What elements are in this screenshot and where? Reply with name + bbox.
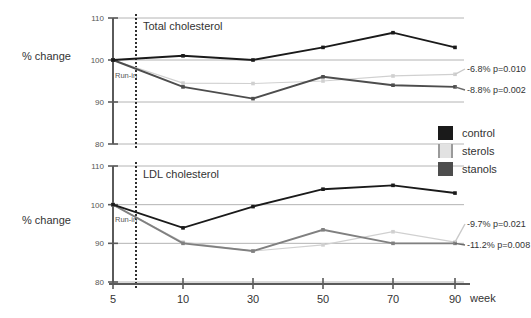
panel-title: Total cholesterol bbox=[143, 20, 223, 32]
legend-item-control[interactable]: control bbox=[438, 124, 497, 142]
x-axis-unit-label: week bbox=[470, 292, 496, 304]
data-point-control-w70 bbox=[391, 184, 395, 188]
legend-item-sterols[interactable]: sterols bbox=[438, 142, 497, 160]
annotation-leader-sterols bbox=[455, 224, 465, 242]
series-line-control bbox=[113, 33, 455, 60]
data-point-stanols-w50 bbox=[321, 75, 325, 79]
series-line-control bbox=[113, 185, 455, 228]
data-point-sterols-w50 bbox=[321, 243, 325, 247]
y-tick-label-100: 100 bbox=[91, 56, 105, 65]
annotation-stanols: -11.2% p=0.008 bbox=[467, 240, 530, 250]
annotation-sterols: -6.8% p=0.010 bbox=[467, 64, 526, 74]
legend-label-sterols: sterols bbox=[462, 145, 494, 157]
figure-root: % change 8090100110Run-inTotal cholester… bbox=[0, 0, 531, 318]
legend-label-stanols: stanols bbox=[462, 163, 497, 175]
y-tick-label-90: 90 bbox=[95, 239, 104, 248]
series-line-stanols bbox=[113, 205, 455, 251]
data-point-stanols-w30 bbox=[251, 249, 255, 253]
series-line-stanols bbox=[113, 60, 455, 99]
data-point-stanols-w70 bbox=[391, 83, 395, 87]
data-point-stanols-w10 bbox=[181, 85, 185, 89]
legend-swatch-sterols bbox=[438, 144, 453, 158]
x-tick-label-5: 5 bbox=[110, 293, 116, 305]
x-tick-label-70: 70 bbox=[387, 293, 399, 305]
legend-label-control: control bbox=[462, 127, 495, 139]
data-point-sterols-w70 bbox=[391, 74, 395, 78]
data-point-sterols-w70 bbox=[391, 230, 395, 234]
x-tick-label-30: 30 bbox=[247, 293, 259, 305]
annotation-sterols: -9.7% p=0.021 bbox=[467, 219, 526, 229]
x-tick-label-10: 10 bbox=[177, 293, 189, 305]
data-point-stanols-w50 bbox=[321, 228, 325, 232]
run-in-label: Run-in bbox=[115, 71, 137, 80]
legend-swatch-stanols bbox=[438, 162, 453, 176]
y-tick-label-90: 90 bbox=[95, 98, 104, 107]
x-tick-label-50: 50 bbox=[317, 293, 329, 305]
data-point-sterols-w30 bbox=[251, 82, 255, 86]
data-point-stanols-w30 bbox=[251, 97, 255, 101]
data-point-control-w30 bbox=[251, 205, 255, 209]
y-tick-label-110: 110 bbox=[91, 162, 104, 171]
legend-item-stanols[interactable]: stanols bbox=[438, 160, 497, 178]
data-point-control-w90 bbox=[453, 46, 457, 50]
data-point-control-w50 bbox=[321, 46, 325, 50]
data-point-control-w90 bbox=[453, 191, 457, 195]
data-point-stanols-w10 bbox=[181, 242, 185, 246]
data-point-sterols-w50 bbox=[321, 79, 325, 83]
data-point-control-w5 bbox=[111, 58, 115, 62]
data-point-control-w10 bbox=[181, 54, 185, 58]
data-point-control-w5 bbox=[111, 203, 115, 207]
panel-title: LDL cholesterol bbox=[143, 168, 219, 180]
annotation-stanols: -8.8% p=0.002 bbox=[467, 85, 526, 95]
y-tick-label-110: 110 bbox=[91, 14, 104, 23]
y-tick-label-100: 100 bbox=[91, 201, 105, 210]
data-point-control-w50 bbox=[321, 187, 325, 191]
data-point-stanols-w70 bbox=[391, 242, 395, 246]
data-point-control-w70 bbox=[391, 31, 395, 35]
x-axis: 51030507090 bbox=[0, 282, 531, 318]
data-point-control-w10 bbox=[181, 226, 185, 230]
legend-swatch-control bbox=[438, 126, 453, 140]
y-axis-title-bottom: % change bbox=[22, 214, 71, 226]
y-axis-title-top: % change bbox=[22, 50, 71, 62]
annotation-leader-sterols bbox=[455, 69, 465, 74]
x-tick-label-90: 90 bbox=[449, 293, 461, 305]
data-point-control-w30 bbox=[251, 58, 255, 62]
data-point-sterols-w10 bbox=[181, 81, 185, 85]
legend: control sterols stanols bbox=[438, 124, 497, 178]
